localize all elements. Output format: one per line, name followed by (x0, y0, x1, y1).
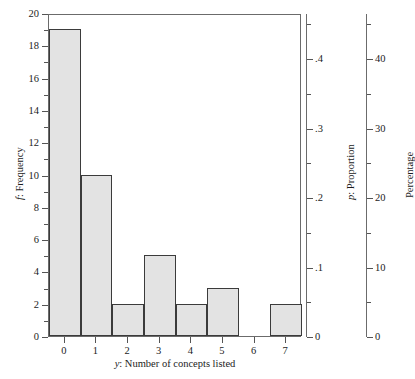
major-tick (307, 59, 313, 60)
minor-tick (44, 321, 48, 322)
axis-tick-label: 12 (29, 138, 40, 149)
bar-7 (270, 304, 302, 336)
axis-tick-label: 0 (34, 332, 39, 343)
proportion-axis-line (306, 14, 307, 337)
major-tick (42, 272, 48, 273)
left-axis-title-text: : Frequency (14, 147, 25, 197)
major-tick (367, 129, 373, 130)
axis-tick-label: 40 (375, 54, 386, 65)
major-tick (42, 79, 48, 80)
major-tick (367, 337, 373, 338)
axis-tick-label: 2 (124, 346, 129, 357)
major-tick (307, 337, 313, 338)
major-tick (367, 198, 373, 199)
axis-tick-label: 10 (29, 170, 40, 181)
major-tick (42, 337, 48, 338)
minor-tick (44, 62, 48, 63)
axis-tick-label: 4 (34, 267, 39, 278)
bar-4 (176, 304, 208, 336)
plot-area (48, 14, 301, 337)
axis-tick-label: 8 (34, 203, 39, 214)
major-tick (42, 143, 48, 144)
axis-tick-label: 16 (29, 73, 40, 84)
bar-2 (112, 304, 144, 336)
minor-tick (44, 159, 48, 160)
axis-tick-label: 1 (93, 346, 98, 357)
axis-tick-label: 7 (283, 346, 288, 357)
major-tick (42, 111, 48, 112)
major-tick (95, 337, 96, 343)
minor-tick (44, 289, 48, 290)
axis-tick-label: .4 (315, 54, 323, 65)
axis-tick-label: 0 (61, 346, 66, 357)
minor-tick (307, 302, 311, 303)
x-axis-title: y: Number of concepts listed (115, 358, 236, 369)
major-tick (222, 337, 223, 343)
major-tick (42, 46, 48, 47)
minor-tick (307, 233, 311, 234)
major-tick (307, 129, 313, 130)
major-tick (367, 59, 373, 60)
axis-tick-label: 3 (156, 346, 161, 357)
axis-tick-label: 14 (29, 106, 40, 117)
major-tick (127, 337, 128, 343)
minor-tick (44, 127, 48, 128)
axis-tick-label: 30 (375, 123, 386, 134)
minor-tick (367, 24, 371, 25)
minor-tick (367, 302, 371, 303)
axis-tick-label: .2 (315, 193, 323, 204)
major-tick (307, 198, 313, 199)
major-tick (367, 268, 373, 269)
minor-tick (307, 163, 311, 164)
minor-tick (44, 224, 48, 225)
axis-tick-label: 4 (188, 346, 193, 357)
axis-tick-label: 6 (34, 235, 39, 246)
major-tick (42, 176, 48, 177)
bar-series (49, 15, 300, 336)
axis-tick-label: 5 (219, 346, 224, 357)
axis-tick-label: 6 (251, 346, 256, 357)
bar-0 (49, 29, 81, 336)
axis-tick-label: 20 (375, 193, 386, 204)
major-tick (42, 208, 48, 209)
proportion-axis-title: p: Proportion (345, 144, 356, 200)
minor-tick (44, 256, 48, 257)
axis-tick-label: 0 (315, 332, 320, 343)
axis-tick-label: .3 (315, 123, 323, 134)
minor-tick (44, 95, 48, 96)
major-tick (307, 268, 313, 269)
axis-tick-label: 0 (375, 332, 380, 343)
minor-tick (44, 30, 48, 31)
major-tick (42, 240, 48, 241)
percentage-axis-line (366, 14, 367, 337)
minor-tick (367, 94, 371, 95)
major-tick (285, 337, 286, 343)
minor-tick (307, 94, 311, 95)
axis-tick-label: 10 (375, 262, 386, 273)
major-tick (190, 337, 191, 343)
axis-tick-label: 20 (29, 9, 40, 20)
proportion-axis-title-symbol: p (345, 195, 356, 200)
major-tick (159, 337, 160, 343)
bar-1 (81, 175, 113, 337)
bar-5 (207, 288, 239, 336)
minor-tick (367, 233, 371, 234)
proportion-axis-title-text: : Proportion (345, 144, 356, 194)
major-tick (254, 337, 255, 343)
minor-tick (307, 24, 311, 25)
axis-tick-label: 2 (34, 299, 39, 310)
x-axis-title-text: : Number of concepts listed (119, 358, 235, 369)
minor-tick (44, 192, 48, 193)
axis-tick-label: .1 (315, 262, 323, 273)
percentage-axis-title: Percentage (404, 152, 415, 198)
major-tick (64, 337, 65, 343)
major-tick (42, 305, 48, 306)
major-tick (42, 14, 48, 15)
bar-3 (144, 255, 176, 336)
left-axis-title: f: Frequency (14, 147, 25, 200)
left-axis-title-symbol: f (14, 197, 25, 200)
axis-tick-label: 18 (29, 41, 40, 52)
minor-tick (367, 163, 371, 164)
